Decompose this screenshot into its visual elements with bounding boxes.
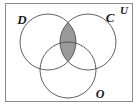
universe-label: U [120,4,129,16]
set-label-d: D [16,12,27,27]
set-label-c: C [106,10,115,25]
venn-diagram-svg: D C O U [0,0,138,106]
set-label-o: O [96,87,105,101]
venn-diagram-figure: D C O U [0,0,138,106]
